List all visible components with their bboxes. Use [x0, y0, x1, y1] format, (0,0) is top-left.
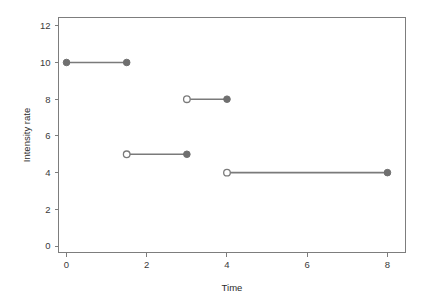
y-tick-label: 0: [45, 240, 50, 251]
y-tick-label: 2: [45, 204, 50, 215]
data-point-filled: [123, 59, 130, 66]
data-point-filled: [63, 59, 70, 66]
data-point-open: [123, 151, 130, 158]
data-point-open: [184, 96, 191, 103]
y-tick-label: 10: [40, 57, 51, 68]
y-tick-label: 12: [40, 20, 51, 31]
chart-container: 024681012 02468 Time Intensity rate: [0, 0, 426, 299]
data-point-filled: [224, 96, 231, 103]
y-axis-title: Intensity rate: [21, 108, 32, 162]
data-point-filled: [384, 169, 391, 176]
y-tick-label: 8: [45, 94, 50, 105]
x-tick-label: 4: [224, 259, 229, 270]
data-point-filled: [184, 151, 191, 158]
chart-canvas: 024681012 02468 Time Intensity rate: [0, 0, 426, 299]
x-tick-label: 8: [385, 259, 390, 270]
x-tick-label: 2: [144, 259, 149, 270]
x-tick-label: 6: [305, 259, 310, 270]
y-tick-label: 4: [45, 167, 50, 178]
y-tick-label: 6: [45, 130, 50, 141]
data-point-open: [224, 169, 231, 176]
x-axis-title: Time: [222, 282, 243, 293]
chart-background: [0, 0, 426, 299]
x-tick-label: 0: [64, 259, 69, 270]
